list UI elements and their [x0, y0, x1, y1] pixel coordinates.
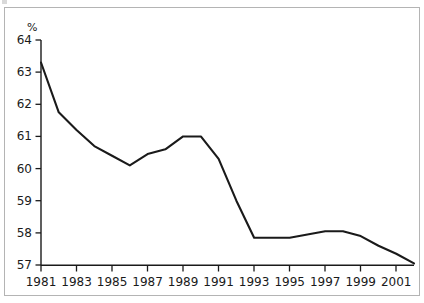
figure-root: % 6463626160595857 198119831985198719891…	[0, 0, 424, 303]
x-axis-tick-label: 1985	[97, 276, 128, 288]
y-axis-tick-label: 59	[14, 195, 32, 207]
x-axis-tick-label: 1981	[26, 276, 57, 288]
x-axis-tick-label: 2001	[381, 276, 412, 288]
y-axis-tick-label: 64	[14, 34, 32, 46]
y-axis-tick-label: 60	[14, 163, 32, 175]
x-axis-tick-label: 1987	[132, 276, 163, 288]
x-axis-tick-label: 1983	[61, 276, 92, 288]
x-axis	[41, 265, 414, 271]
y-axis	[36, 40, 42, 266]
x-axis-tick-label: 1997	[310, 276, 341, 288]
y-axis-tick-label: 61	[14, 130, 32, 142]
x-axis-tick-label: 1989	[168, 276, 199, 288]
x-axis-tick-label: 1993	[239, 276, 270, 288]
y-axis-tick-label: 58	[14, 227, 32, 239]
chart-plot-area	[0, 0, 424, 303]
y-axis-ticks	[36, 40, 42, 265]
x-axis-tick-label: 1991	[203, 276, 234, 288]
x-axis-ticks	[41, 265, 396, 271]
y-axis-unit-label: %	[27, 22, 37, 33]
y-axis-tick-label: 62	[14, 98, 32, 110]
x-axis-tick-label: 1995	[274, 276, 305, 288]
x-axis-tick-label: 1999	[345, 276, 376, 288]
data-series-line	[41, 63, 414, 264]
y-axis-tick-label: 57	[14, 259, 32, 271]
y-axis-tick-label: 63	[14, 66, 32, 78]
